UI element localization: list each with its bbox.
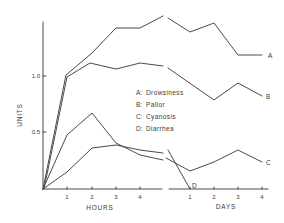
x-tick-label-h3: 3 (114, 194, 118, 200)
series-a-drowsiness-hours (43, 16, 163, 189)
x-tick-label-d3: 3 (236, 194, 240, 200)
y-tick-label-1: 1.0 (32, 73, 41, 79)
legend-key-b: B: (136, 101, 142, 108)
series-b-end-label: B (266, 93, 270, 100)
legend-key-a: A: (136, 89, 142, 96)
legend-text-a: Drowsiness (146, 89, 184, 96)
x-tick-label-d1: 1 (188, 194, 192, 200)
legend-text-b: Pallor (146, 101, 165, 108)
x-tick-label-h4: 4 (138, 194, 142, 200)
symptom-units-chart: 1.0 0.5 UNITS 1 2 3 4 HOURS 1 2 3 4 DAYS… (0, 0, 284, 223)
x-axis-label-hours: HOURS (86, 204, 113, 211)
x-axis-label-days: DAYS (216, 203, 236, 210)
series-c-cyanosis-days (166, 150, 262, 171)
series-c-end-label: C (266, 159, 271, 166)
legend-key-d: D: (136, 125, 143, 132)
x-tick-label-h1: 1 (65, 194, 69, 200)
legend-key-c: C: (136, 113, 143, 120)
legend: A: Drowsiness B: Pallor C: Cyanosis D: D… (136, 89, 184, 132)
series-d-end-label: D (192, 182, 197, 189)
legend-text-d: Diarrhea (146, 125, 174, 132)
x-tick-label-d4: 4 (260, 194, 264, 200)
y-axis-label: UNITS (16, 103, 23, 127)
series-d-diarrhea-hours (43, 145, 163, 189)
y-tick-label-05: 0.5 (32, 129, 41, 135)
x-tick-label-h2: 2 (90, 194, 94, 200)
x-tick-label-d2: 2 (212, 194, 216, 200)
legend-text-c: Cyanosis (146, 113, 176, 121)
series-a-end-label: A (268, 52, 273, 59)
series-a-drowsiness-days (168, 18, 262, 55)
